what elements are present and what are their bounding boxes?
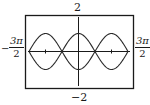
x-max-numerator: 3π	[135, 36, 150, 48]
x-min-denominator: 2	[9, 48, 24, 59]
x-max-label: 3π 2	[135, 36, 150, 59]
x-max-denominator: 2	[135, 48, 150, 59]
x-min-numerator: 3π	[9, 36, 24, 48]
x-min-label: − 3π 2	[9, 36, 24, 59]
y-min-label: −2	[71, 92, 87, 103]
x-min-minus-sign: −	[1, 44, 9, 54]
y-max-label: 2	[74, 2, 81, 13]
